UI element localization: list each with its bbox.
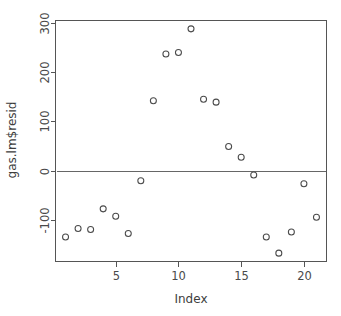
data-point: [163, 51, 169, 57]
x-axis-ticks: 5101520: [113, 262, 312, 283]
y-axis-ticks: -1000100200300: [38, 13, 56, 234]
data-point: [238, 154, 244, 160]
data-point: [63, 234, 69, 240]
data-point-series: [63, 26, 320, 256]
y-tick-label: 100: [38, 111, 52, 133]
y-tick-label: 0: [38, 168, 52, 175]
y-axis-title: gas.lm$resid: [5, 102, 19, 179]
data-point: [188, 26, 194, 32]
data-point: [276, 250, 282, 256]
y-tick-label: 200: [38, 62, 52, 84]
data-point: [263, 234, 269, 240]
data-point: [301, 181, 307, 187]
data-point: [226, 143, 232, 149]
y-tick-label: 300: [38, 13, 52, 35]
data-point: [213, 99, 219, 105]
x-tick-label: 5: [113, 269, 120, 283]
residual-scatter-plot: -1000100200300 5101520 gas.lm$resid Inde…: [0, 0, 341, 316]
data-point: [100, 206, 106, 212]
data-point: [313, 214, 319, 220]
data-point: [175, 49, 181, 55]
data-point: [125, 230, 131, 236]
x-axis-title: Index: [174, 292, 207, 306]
data-point: [113, 213, 119, 219]
x-tick-label: 20: [297, 269, 312, 283]
plot-canvas: -1000100200300 5101520 gas.lm$resid Inde…: [0, 0, 341, 316]
y-tick-label: -100: [38, 207, 52, 233]
plot-box: [56, 21, 327, 262]
data-point: [201, 96, 207, 102]
data-point: [88, 227, 94, 233]
x-tick-label: 15: [234, 269, 249, 283]
x-tick-label: 10: [171, 269, 186, 283]
data-point: [251, 172, 257, 178]
plot-frame: [56, 21, 327, 262]
data-point: [150, 98, 156, 104]
data-point: [138, 178, 144, 184]
data-point: [288, 229, 294, 235]
data-point: [75, 226, 81, 232]
